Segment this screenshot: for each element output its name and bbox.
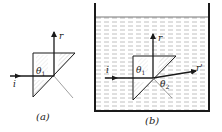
figure-canvas bbox=[0, 0, 222, 132]
label-r-a: r bbox=[59, 32, 63, 41]
panel-b bbox=[95, 3, 209, 111]
caption-b: (b) bbox=[145, 116, 159, 126]
label-r-b: r bbox=[158, 34, 162, 43]
label-theta1-b: θ1 bbox=[136, 66, 145, 76]
incident-arrow-icon bbox=[15, 74, 21, 79]
caption-a: (a) bbox=[36, 112, 50, 122]
theta-subscript: 1 bbox=[41, 70, 45, 77]
label-i-b: i bbox=[106, 66, 109, 75]
label-theta1-a: θ1 bbox=[36, 67, 45, 77]
label-rprime-b: r' bbox=[196, 64, 203, 73]
theta-subscript: 1 bbox=[141, 69, 145, 76]
label-theta2-b: θ2 bbox=[160, 80, 169, 90]
label-i-a: i bbox=[13, 80, 16, 89]
transmitted-ray-a bbox=[54, 76, 73, 98]
theta-subscript: 2 bbox=[165, 83, 169, 90]
panel-a bbox=[10, 32, 75, 98]
